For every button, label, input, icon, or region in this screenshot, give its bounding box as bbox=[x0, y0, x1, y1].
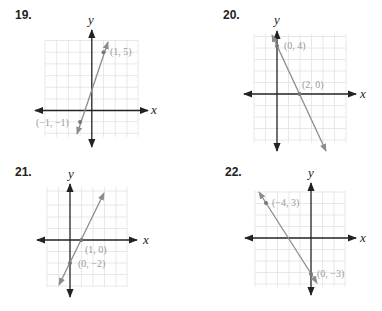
x-axis-label: x bbox=[359, 86, 366, 101]
point-label-1: (1, 5) bbox=[110, 46, 132, 58]
point-1 bbox=[102, 50, 106, 54]
point-label-2: (0, −2) bbox=[78, 258, 105, 270]
y-axis-label: y bbox=[66, 166, 74, 181]
x-axis-label: x bbox=[142, 232, 149, 247]
y-axis-label: y bbox=[86, 12, 94, 27]
graphs-canvas: x y (1, 5) (−1, −1) x y (0, 4) (2, 0) x … bbox=[0, 0, 382, 311]
x-axis-label: x bbox=[359, 230, 366, 245]
point-label-2: (0, −3) bbox=[317, 268, 344, 280]
point-label-1: (0, 4) bbox=[284, 40, 306, 52]
point-label-2: (2, 0) bbox=[302, 79, 324, 91]
x-axis-label: x bbox=[150, 102, 157, 117]
point-label-2: (−1, −1) bbox=[36, 117, 69, 129]
graph-22: x y (−4, 3) (0, −3) bbox=[245, 165, 366, 295]
point-label-1: (−4, 3) bbox=[272, 197, 299, 209]
y-axis-label: y bbox=[272, 12, 280, 27]
y-axis-label: y bbox=[306, 165, 314, 180]
point-2 bbox=[78, 120, 82, 124]
point-label-1: (1, 0) bbox=[85, 244, 107, 256]
graph-21: x y (1, 0) (0, −2) bbox=[37, 166, 149, 297]
graph-20: x y (0, 4) (2, 0) bbox=[244, 12, 366, 151]
graph-19: x y (1, 5) (−1, −1) bbox=[35, 12, 157, 147]
